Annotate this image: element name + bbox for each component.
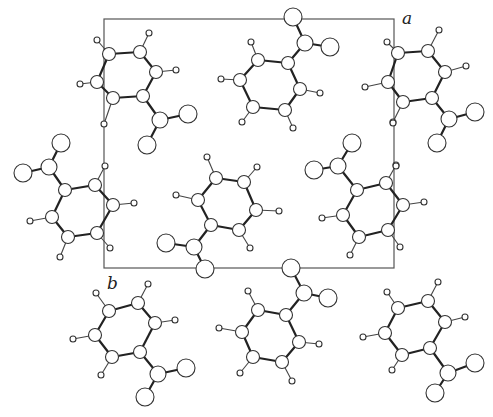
- hydrogen-atom: [216, 325, 222, 331]
- molecule: [360, 279, 484, 402]
- hydrogen-atom: [107, 245, 113, 251]
- hydrogen-atom: [421, 199, 427, 205]
- carbon-atom: [107, 199, 120, 212]
- carbon-atom: [439, 316, 452, 329]
- carbon-atom: [397, 96, 410, 109]
- carbon-atom: [252, 54, 265, 67]
- molecule: [157, 154, 282, 278]
- oxygen-atom: [426, 384, 444, 402]
- carboxyl-carbon-atom: [441, 111, 457, 127]
- hydrogen-atom: [237, 370, 243, 376]
- hydrogen-atom: [436, 27, 442, 33]
- carbon-atom: [238, 176, 251, 189]
- carbon-atom: [250, 204, 263, 217]
- carbon-atom: [89, 329, 102, 342]
- hydrogen-atom: [131, 200, 137, 206]
- hydrogen-atom: [462, 314, 468, 320]
- hydrogen-atom: [389, 367, 395, 373]
- oxygen-atom: [138, 136, 156, 154]
- carbon-atom: [351, 184, 364, 197]
- molecule: [305, 134, 427, 258]
- oxygen-atom: [343, 134, 361, 152]
- carbon-atom: [236, 326, 249, 339]
- hydrogen-atom: [145, 281, 151, 287]
- carbon-atom: [426, 92, 439, 105]
- hydrogen-atom: [204, 154, 210, 160]
- carbon-atom: [134, 46, 147, 59]
- oxygen-atom: [321, 38, 339, 56]
- oxygen-atom: [466, 103, 484, 121]
- hydrogen-atom: [390, 120, 396, 126]
- axis-label-a: a: [402, 8, 412, 28]
- crystal-structure-diagram: a b: [0, 0, 493, 417]
- hydrogen-atom: [77, 81, 83, 87]
- carbon-atom: [59, 184, 72, 197]
- carboxyl-carbon-atom: [297, 35, 313, 51]
- oxygen-atom: [319, 289, 337, 307]
- carbon-atom: [337, 209, 350, 222]
- carboxyl-carbon-atom: [186, 239, 202, 255]
- oxygen-atom: [466, 354, 484, 372]
- carbon-atom: [353, 231, 366, 244]
- carboxyl-carbon-atom: [41, 159, 57, 175]
- hydrogen-atom: [245, 288, 251, 294]
- carbon-atom: [282, 57, 295, 70]
- hydrogen-atom: [173, 192, 179, 198]
- molecule: [216, 259, 337, 384]
- carbon-atom: [91, 76, 104, 89]
- hydrogen-atom: [172, 317, 178, 323]
- oxygen-atom: [179, 105, 197, 123]
- carbon-atom: [392, 47, 405, 60]
- hydrogen-atom: [70, 336, 76, 342]
- molecule: [70, 281, 195, 406]
- carbon-atom: [422, 45, 435, 58]
- hydrogen-atom: [290, 125, 296, 131]
- hydrogen-atom: [362, 84, 368, 90]
- hydrogen-atom: [146, 30, 152, 36]
- hydrogen-atom: [435, 279, 441, 285]
- hydrogen-atom: [94, 37, 100, 43]
- oxygen-atom: [305, 161, 323, 179]
- carboxyl-carbon-atom: [296, 285, 312, 301]
- molecule: [14, 134, 137, 260]
- carbon-atom: [234, 74, 247, 87]
- axis-label-b: b: [107, 273, 118, 293]
- oxygen-atom: [284, 8, 302, 26]
- hydrogen-atom: [57, 254, 63, 260]
- oxygen-atom: [177, 359, 195, 377]
- oxygen-atom: [52, 134, 70, 152]
- hydrogen-atom: [93, 290, 99, 296]
- carbon-atom: [396, 349, 409, 362]
- hydrogen-atom: [254, 164, 260, 170]
- carbon-atom: [397, 199, 410, 212]
- hydrogen-atom: [239, 119, 245, 125]
- hydrogen-atom: [27, 218, 33, 224]
- oxygen-atom: [157, 234, 175, 252]
- hydrogen-atom: [173, 67, 179, 73]
- carbon-atom: [247, 101, 260, 114]
- carbon-atom: [252, 304, 265, 317]
- carbon-atom: [89, 179, 102, 192]
- hydrogen-atom: [463, 63, 469, 69]
- carbon-atom: [205, 219, 218, 232]
- carbon-atom: [103, 48, 116, 61]
- molecule: [77, 30, 197, 154]
- carbon-atom: [149, 317, 162, 330]
- molecule: [362, 27, 484, 152]
- carbon-atom: [106, 351, 119, 364]
- carbon-atom: [137, 90, 150, 103]
- carbon-atom: [424, 342, 437, 355]
- carbon-atom: [382, 224, 395, 237]
- carbon-atom: [247, 351, 260, 364]
- hydrogen-atom: [384, 289, 390, 295]
- carbon-atom: [380, 177, 393, 190]
- carbon-atom: [62, 231, 75, 244]
- hydrogen-atom: [360, 334, 366, 340]
- hydrogen-atom: [247, 245, 253, 251]
- oxygen-atom: [136, 388, 154, 406]
- carbon-atom: [46, 211, 59, 224]
- carbon-atom: [91, 227, 104, 240]
- hydrogen-atom: [101, 121, 107, 127]
- carbon-atom: [210, 172, 223, 185]
- carbon-atom: [276, 356, 289, 369]
